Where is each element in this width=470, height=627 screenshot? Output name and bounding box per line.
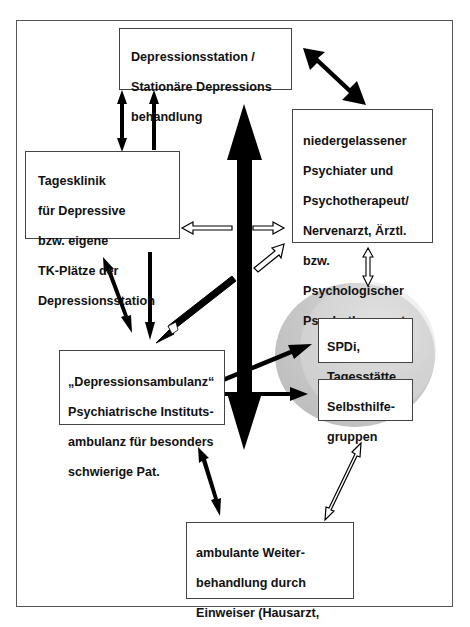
node-depressionsstation: Depressionsstation / Stationäre Depressi… [119, 28, 292, 90]
node-ambulante-weiterbehandlung: ambulante Weiter- behandlung durch Einwe… [186, 522, 354, 599]
hollow-arrow-diagonal-icon [254, 244, 284, 272]
node-niedergelassener-psychiater: niedergelassener Psychiater und Psychoth… [292, 109, 433, 243]
double-arrow-icon [117, 90, 127, 152]
bold-double-arrow-icon [303, 48, 366, 105]
node-spdi-tagesstaette: SPDi, Tagesstätte [318, 318, 413, 363]
hollow-arrow-right-icon [253, 222, 284, 234]
node-depressionsambulanz: „Depressionsambulanz“ Psychiatrische Ins… [59, 350, 225, 425]
node-selbsthilfegruppen: Selbsthilfe- gruppen [318, 379, 413, 421]
hollow-arrow-left-icon [182, 222, 232, 234]
node-tagesklinik: Tagesklinik für Depressive bzw. eigene T… [25, 151, 180, 239]
